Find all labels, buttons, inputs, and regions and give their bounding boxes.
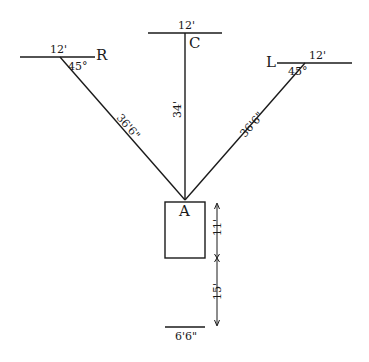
left-width-label: 12' xyxy=(309,49,326,62)
right-span-label: 36'6" xyxy=(114,111,143,141)
left-span-label: 36'6" xyxy=(237,109,266,139)
left-angle-label: 45° xyxy=(288,65,308,78)
anchor-a-label: A xyxy=(178,202,190,220)
center-anchor-label: C xyxy=(189,34,200,52)
center-width-label: 12' xyxy=(178,19,195,32)
rigging-diagram: 12' R 45° 36'6" 12' C 34' L 12' 45° 36'6… xyxy=(0,0,369,362)
right-angle-label: 45° xyxy=(68,60,88,73)
right-anchor-label: R xyxy=(96,46,108,64)
center-span-label: 34' xyxy=(171,101,184,118)
box-height-label: 11' xyxy=(211,219,224,236)
base-width-label: 6'6" xyxy=(175,330,197,343)
left-anchor-label: L xyxy=(266,53,276,71)
offset-distance-label: 15' xyxy=(211,283,224,300)
right-width-label: 12' xyxy=(50,43,67,56)
